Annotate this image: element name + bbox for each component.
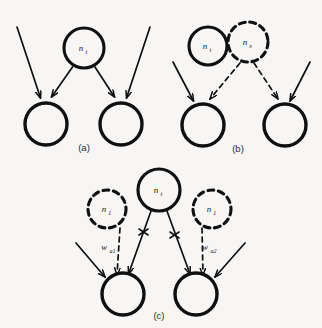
node-c-top-label-sub: t [161, 190, 163, 197]
node-b-top-left-label-sub: t [210, 46, 212, 53]
weight-label-a2-sub: a2 [211, 248, 217, 254]
weight-label-a2: w [202, 242, 208, 252]
edge-external-to-b-right [290, 62, 310, 101]
panel-c: n t n 1 n 1 w a1 w a2 (c) [76, 169, 245, 321]
edge-c-dash-left-to-c-left [117, 228, 120, 275]
panel-c-caption: (c) [153, 310, 164, 321]
node-a-right[interactable] [100, 103, 142, 145]
edge-a-top-to-a-right [95, 67, 115, 97]
diagram-canvas: n t (a) n t n s [0, 0, 322, 328]
node-a-top[interactable] [64, 28, 104, 68]
node-a-top-label-sub: t [86, 48, 88, 55]
node-a-left[interactable] [25, 103, 67, 145]
node-a-top-label: n [79, 43, 84, 53]
panel-b-caption: (b) [232, 143, 244, 154]
weight-label-a1: w [101, 242, 107, 252]
node-b-top-left[interactable] [189, 27, 227, 65]
edge-b-top-right-to-b-left [210, 63, 240, 99]
edge-external-to-c-right [215, 243, 245, 277]
node-c-top-label: n [154, 185, 159, 195]
weight-label-a1-sub: a1 [110, 248, 116, 254]
node-b-top-right-label: n [243, 37, 248, 47]
node-b-top-left-label: n [203, 41, 208, 51]
edge-c-top-to-c-left [129, 211, 152, 274]
edge-external-to-b-left [173, 62, 194, 101]
edge-c-top-to-c-right [167, 211, 190, 274]
node-c-left[interactable] [102, 273, 144, 315]
node-c-right[interactable] [175, 273, 217, 315]
node-c-dash-left-label: n [102, 204, 107, 214]
panel-a: n t (a) [17, 27, 150, 153]
panel-b: n t n s (b) [173, 22, 310, 154]
edge-external-to-a-right [127, 27, 151, 98]
figure-container: n t (a) n t n s [0, 0, 322, 328]
node-c-top[interactable] [138, 169, 180, 211]
node-c-dash-right-label: n [207, 204, 212, 214]
edge-external-to-a-left [17, 27, 41, 98]
edge-a-top-to-a-left [52, 67, 73, 97]
node-b-left[interactable] [182, 104, 224, 146]
node-c-dash-left-label-sub: 1 [108, 209, 111, 216]
node-b-top-right[interactable] [228, 22, 268, 62]
edge-b-top-right-to-b-right [254, 63, 278, 99]
node-b-right[interactable] [264, 104, 306, 146]
panel-a-caption: (a) [78, 142, 90, 153]
node-c-dash-right-label-sub: 1 [213, 209, 216, 216]
